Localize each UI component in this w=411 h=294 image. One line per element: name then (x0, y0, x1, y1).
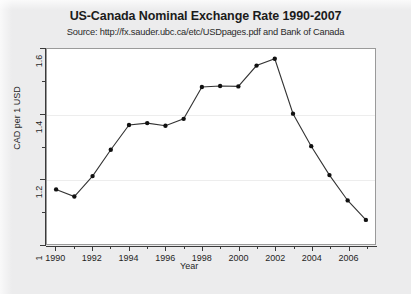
y-tick-minor (42, 212, 45, 213)
data-point (273, 57, 277, 61)
x-axis-title: Year (180, 261, 198, 271)
data-point (54, 187, 58, 191)
x-axis-line (46, 246, 377, 247)
y-tick-minor (42, 81, 45, 82)
data-point (327, 173, 331, 177)
x-tick-minor (367, 247, 368, 249)
x-tick (202, 247, 203, 251)
x-tick-minor (294, 247, 295, 249)
x-tick-label: 1992 (72, 253, 112, 263)
series-line-cad-per-usd (47, 49, 375, 244)
x-tick (129, 247, 130, 251)
x-tick (165, 247, 166, 251)
data-point (291, 111, 295, 115)
x-tick (349, 247, 350, 251)
data-point (181, 117, 185, 121)
x-tick (55, 247, 56, 251)
plot-panel (46, 48, 376, 245)
data-point (200, 85, 204, 89)
y-tick-label: 1.6 (34, 47, 44, 75)
data-point (90, 174, 94, 178)
x-tick-minor (257, 247, 258, 249)
x-tick-label: 2006 (329, 253, 369, 263)
x-tick (239, 247, 240, 251)
x-tick-minor (74, 247, 75, 249)
x-tick-minor (184, 247, 185, 249)
y-tick-minor (42, 147, 45, 148)
data-point (109, 148, 113, 152)
series-polyline (56, 59, 366, 220)
y-axis-title: CAD per 1 USD (12, 68, 22, 168)
data-point (364, 218, 368, 222)
x-tick-label: 2002 (255, 253, 295, 263)
x-tick-minor (330, 247, 331, 249)
x-tick (312, 247, 313, 251)
x-tick-label: 1990 (35, 253, 75, 263)
data-point (254, 63, 258, 67)
y-tick-label: 1.4 (34, 113, 44, 141)
chart-source-note: Source: http://fx.sauder.ubc.ca/etc/USDp… (0, 27, 411, 37)
scanned-page: US-Canada Nominal Exchange Rate 1990-200… (0, 0, 411, 294)
data-point (236, 84, 240, 88)
data-point (309, 144, 313, 148)
data-point (127, 123, 131, 127)
y-tick-label: 1.2 (34, 178, 44, 206)
x-tick-label: 2004 (292, 253, 332, 263)
data-point (72, 194, 76, 198)
data-point (145, 121, 149, 125)
x-tick-minor (147, 247, 148, 249)
exchange-rate-line-chart: US-Canada Nominal Exchange Rate 1990-200… (0, 0, 411, 294)
x-tick-label: 1994 (109, 253, 149, 263)
data-point (345, 198, 349, 202)
y-axis-line (45, 48, 46, 246)
data-point (163, 124, 167, 128)
data-point (218, 84, 222, 88)
series-markers (54, 57, 368, 223)
x-tick (275, 247, 276, 251)
x-tick-minor (110, 247, 111, 249)
x-tick-minor (220, 247, 221, 249)
x-tick-label: 2000 (219, 253, 259, 263)
x-tick (92, 247, 93, 251)
chart-title: US-Canada Nominal Exchange Rate 1990-200… (0, 9, 411, 23)
